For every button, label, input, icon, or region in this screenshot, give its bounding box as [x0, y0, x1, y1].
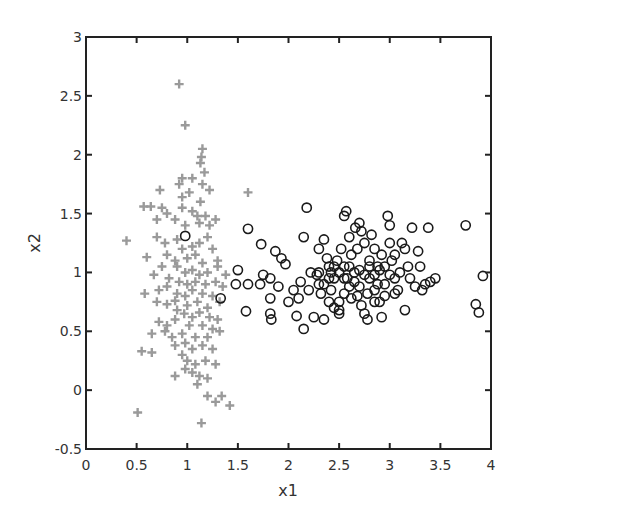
plus-marker: [198, 321, 207, 330]
plus-marker: [188, 313, 197, 322]
plus-marker: [178, 244, 187, 253]
plus-marker: [185, 321, 194, 330]
plus-marker: [198, 180, 207, 189]
plus-marker: [163, 250, 172, 259]
plus-marker: [133, 408, 142, 417]
y-tick-label: -0.5: [55, 441, 82, 457]
plus-marker: [185, 188, 194, 197]
plus-marker: [142, 253, 151, 262]
plus-marker: [171, 372, 180, 381]
circle-marker: [383, 211, 392, 220]
plus-marker: [211, 360, 220, 369]
plus-marker: [203, 392, 212, 401]
plus-marker: [188, 344, 197, 353]
plus-marker: [181, 121, 190, 130]
plus-marker: [171, 341, 180, 350]
circle-marker: [314, 244, 323, 253]
circle-marker: [309, 313, 318, 322]
circle-marker: [324, 297, 333, 306]
plus-marker: [198, 341, 207, 350]
plus-marker: [193, 380, 202, 389]
plus-marker: [211, 397, 220, 406]
circle-marker: [302, 203, 311, 212]
y-tick-label: 1.5: [60, 206, 82, 222]
plus-marker: [154, 317, 163, 326]
plus-marker: [191, 250, 200, 259]
circle-marker: [257, 240, 266, 249]
x-tick-label: 1.5: [227, 457, 249, 473]
plus-marker: [171, 315, 180, 324]
plus-marker: [213, 262, 222, 271]
plus-marker: [178, 329, 187, 338]
plus-marker: [147, 348, 156, 357]
y-tick-label: 0.5: [60, 323, 82, 339]
plus-marker: [178, 203, 187, 212]
plus-marker: [208, 344, 217, 353]
plus-marker: [154, 286, 163, 295]
plus-marker: [201, 280, 210, 289]
plot-area: [122, 80, 488, 428]
plus-marker: [200, 168, 209, 177]
circle-marker: [377, 313, 386, 322]
plus-marker: [221, 270, 230, 279]
plus-marker: [203, 268, 212, 277]
plus-marker: [165, 274, 174, 283]
plus-marker: [175, 277, 184, 286]
circle-marker: [267, 315, 276, 324]
plus-marker: [191, 333, 200, 342]
y-tick-label: 2: [73, 147, 82, 163]
circle-marker: [385, 221, 394, 230]
plus-marker: [203, 233, 212, 242]
circle-marker: [266, 294, 275, 303]
x-tick-label: 1: [183, 457, 192, 473]
plus-marker: [188, 207, 197, 216]
scatter-chart: 00.511.522.533.54-0.500.511.522.53 x1 x2: [0, 0, 623, 516]
circle-marker: [474, 308, 483, 317]
plus-marker: [183, 356, 192, 365]
x-tick-label: 4: [487, 457, 496, 473]
x-tick-label: 2: [284, 457, 293, 473]
plus-marker: [163, 209, 172, 218]
plus-marker: [205, 221, 214, 230]
plus-marker: [152, 233, 161, 242]
circle-marker: [337, 244, 346, 253]
circle-marker: [407, 223, 416, 232]
plus-marker: [152, 215, 161, 224]
y-axis-label: x2: [25, 233, 44, 253]
plus-marker: [203, 374, 212, 383]
plus-marker: [175, 80, 184, 89]
circle-marker: [296, 277, 305, 286]
series-circle-markers: [181, 203, 488, 333]
plus-marker: [225, 401, 234, 410]
plus-marker: [171, 215, 180, 224]
x-tick-label: 0: [82, 457, 91, 473]
x-tick-label: 3.5: [429, 457, 451, 473]
circle-marker: [353, 244, 362, 253]
plus-marker: [211, 277, 220, 286]
circle-marker: [233, 265, 242, 274]
plus-marker: [196, 158, 205, 167]
x-tick-label: 0.5: [125, 457, 147, 473]
axes-box: [86, 37, 491, 449]
circle-marker: [400, 305, 409, 314]
plus-marker: [137, 347, 146, 356]
plus-marker: [197, 419, 206, 428]
plus-marker: [218, 282, 227, 291]
plus-marker: [183, 301, 192, 310]
circle-marker: [284, 297, 293, 306]
plus-marker: [217, 392, 226, 401]
plus-marker: [193, 297, 202, 306]
plus-marker: [163, 300, 172, 309]
plus-marker: [157, 203, 166, 212]
plus-marker: [181, 291, 190, 300]
circle-marker: [181, 231, 190, 240]
circle-marker: [416, 262, 425, 271]
plus-marker: [163, 282, 172, 291]
circle-marker: [414, 247, 423, 256]
plus-marker: [168, 333, 177, 342]
plus-marker: [181, 339, 190, 348]
plus-marker: [160, 239, 169, 248]
plus-marker: [205, 186, 214, 195]
plus-marker: [208, 244, 217, 253]
circle-marker: [345, 233, 354, 242]
